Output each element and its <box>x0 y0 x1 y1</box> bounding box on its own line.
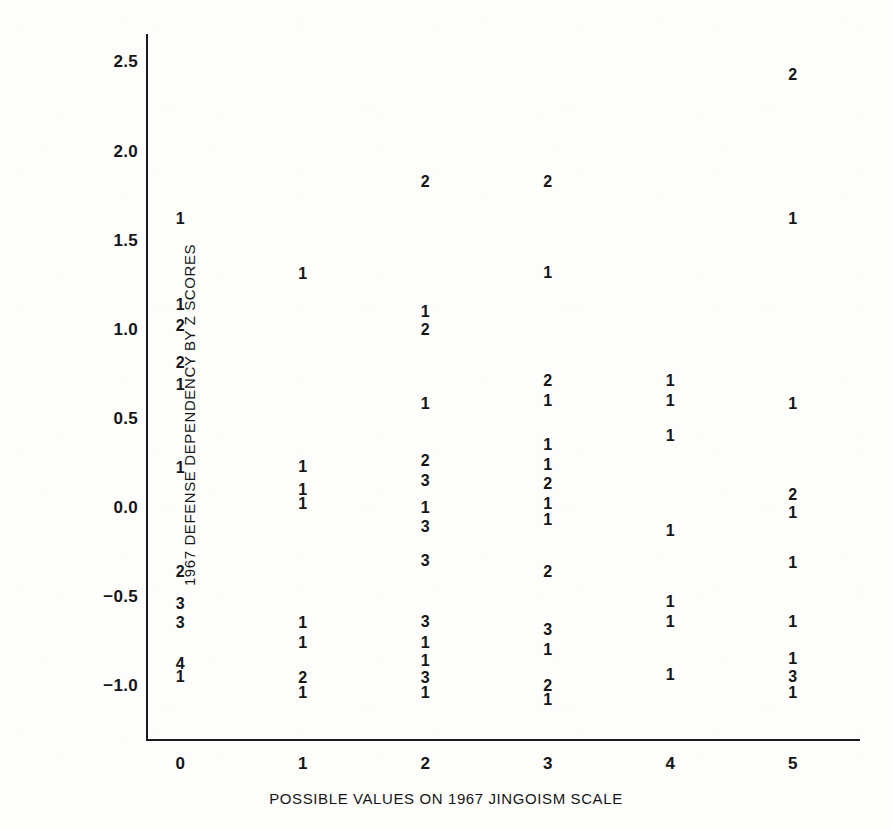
x-tick-label-1: 1 <box>298 754 307 774</box>
data-point: 1 <box>543 457 552 473</box>
data-point: 1 <box>543 496 552 512</box>
data-point: 1 <box>666 393 675 409</box>
data-point: 1 <box>176 211 185 227</box>
data-point: 1 <box>666 667 675 683</box>
data-point: 1 <box>666 373 675 389</box>
data-point: 3 <box>176 596 185 612</box>
data-point: 1 <box>176 669 185 685</box>
data-point: 3 <box>176 615 185 631</box>
x-axis-title: POSSIBLE VALUES ON 1967 JINGOISM SCALE <box>0 790 892 807</box>
data-point: 3 <box>421 614 430 630</box>
data-point: 1 <box>298 685 307 701</box>
data-point: 1 <box>666 614 675 630</box>
data-point: 1 <box>543 265 552 281</box>
y-tick-label: 2.0 <box>60 142 138 162</box>
data-point: 3 <box>543 622 552 638</box>
chart-page: 2.52.01.51.00.50.0−0.5−1.0 012345 112211… <box>0 0 892 829</box>
y-tick-label: 2.5 <box>60 52 138 72</box>
data-point: 1 <box>788 211 797 227</box>
data-point: 1 <box>421 500 430 516</box>
data-point: 2 <box>788 487 797 503</box>
data-point: 1 <box>298 615 307 631</box>
data-point: 2 <box>421 322 430 338</box>
data-point: 2 <box>543 476 552 492</box>
data-point: 1 <box>421 635 430 651</box>
x-tick-label-0: 0 <box>176 754 185 774</box>
data-point: 1 <box>788 685 797 701</box>
data-point: 1 <box>543 642 552 658</box>
data-point: 3 <box>421 553 430 569</box>
scatter-plot-area: 2.52.01.51.00.50.0−0.5−1.0 012345 112211… <box>0 0 892 829</box>
data-point: 2 <box>421 453 430 469</box>
data-point: 3 <box>421 519 430 535</box>
data-point: 1 <box>788 505 797 521</box>
data-point: 1 <box>788 396 797 412</box>
data-point: 3 <box>421 473 430 489</box>
data-point: 2 <box>788 67 797 83</box>
data-point: 1 <box>666 428 675 444</box>
data-point: 1 <box>666 523 675 539</box>
data-point: 1 <box>298 496 307 512</box>
data-point: 1 <box>298 635 307 651</box>
y-tick-label: 0.0 <box>60 498 138 518</box>
data-point: 3 <box>788 669 797 685</box>
data-point: 1 <box>543 393 552 409</box>
y-tick-label: −0.5 <box>60 587 138 607</box>
data-point: 1 <box>421 685 430 701</box>
x-axis-line <box>146 739 860 741</box>
x-tick-label-5: 5 <box>788 754 797 774</box>
data-point: 1 <box>543 692 552 708</box>
data-point: 1 <box>788 651 797 667</box>
data-point: 1 <box>543 512 552 528</box>
data-point: 1 <box>421 304 430 320</box>
data-point: 1 <box>298 266 307 282</box>
data-point: 2 <box>543 174 552 190</box>
x-tick-label-3: 3 <box>543 754 552 774</box>
data-point: 1 <box>421 396 430 412</box>
x-tick-label-4: 4 <box>665 754 674 774</box>
data-point: 1 <box>788 614 797 630</box>
data-point: 1 <box>666 594 675 610</box>
y-tick-label: 1.0 <box>60 320 138 340</box>
data-point: 1 <box>788 555 797 571</box>
data-point: 1 <box>543 437 552 453</box>
y-tick-label: 1.5 <box>60 231 138 251</box>
y-axis-line <box>146 34 148 740</box>
data-point: 2 <box>543 373 552 389</box>
data-point: 1 <box>298 459 307 475</box>
data-point: 2 <box>543 564 552 580</box>
y-tick-label: 0.5 <box>60 409 138 429</box>
y-axis-title: 1967 DEFENSE DEPENDENCY BY Z SCORES <box>181 243 198 585</box>
y-tick-label: −1.0 <box>60 676 138 696</box>
data-point: 2 <box>421 174 430 190</box>
data-point: 1 <box>421 653 430 669</box>
x-tick-label-2: 2 <box>420 754 429 774</box>
